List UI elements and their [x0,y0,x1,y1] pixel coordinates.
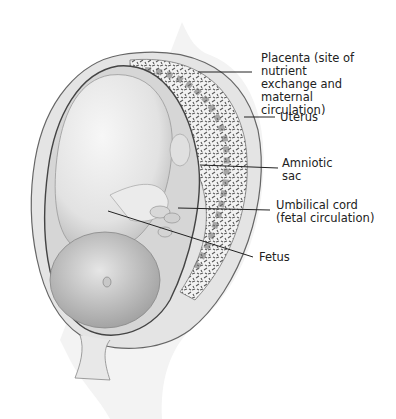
label-placenta: Placenta (site of nutrient exchange and … [261,52,396,117]
label-uterus: Uterus [280,111,318,124]
label-umbilical-cord: Umbilical cord (fetal circulation) [276,199,374,225]
label-fetus: Fetus [259,251,290,264]
label-amniotic-sac: Amniotic sac [282,157,333,183]
